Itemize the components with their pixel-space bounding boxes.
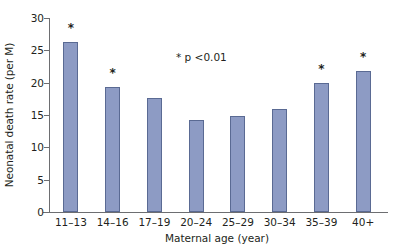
y-tick-label-5: 5 (6, 174, 44, 186)
x-tick-label: 11–13 (50, 216, 92, 229)
y-tick-label-15: 15 (6, 109, 44, 121)
bar[interactable] (105, 87, 120, 212)
bar-slot: * (50, 18, 92, 212)
significance-note: * p <0.01 (176, 51, 227, 64)
plot-area: 0 5 10 15 20 25 30 * * (50, 18, 384, 212)
bar[interactable] (230, 116, 245, 212)
significance-star: * (358, 52, 368, 62)
bar[interactable] (314, 83, 329, 212)
bar[interactable] (147, 98, 162, 212)
bar[interactable] (189, 120, 204, 212)
x-tick-label: 20–24 (175, 216, 217, 229)
y-tick-label-30: 30 (6, 12, 44, 24)
x-tick-label: 17–19 (134, 216, 176, 229)
bar-chart-figure: Neonatal death rate (per M) 0 5 10 15 20… (0, 0, 394, 252)
bar-slot (217, 18, 259, 212)
bar-slot (175, 18, 217, 212)
bar-slot (259, 18, 301, 212)
bar[interactable] (63, 42, 78, 212)
significance-star: * (66, 23, 76, 33)
bar-slot: * (342, 18, 384, 212)
x-tick-label: 35–39 (301, 216, 343, 229)
y-tick-label-20: 20 (6, 77, 44, 89)
bar-slot: * (92, 18, 134, 212)
x-tick-label: 30–34 (259, 216, 301, 229)
significance-star: * (108, 68, 118, 78)
bar-slot: * (301, 18, 343, 212)
y-tick-mark-0 (44, 212, 50, 213)
x-axis-line (43, 212, 388, 213)
bar-slot (134, 18, 176, 212)
x-tick-label: 40+ (342, 216, 384, 229)
significance-star: * (316, 64, 326, 74)
bar[interactable] (356, 71, 371, 212)
x-axis-title: Maternal age (year) (50, 232, 384, 245)
bar[interactable] (272, 109, 287, 212)
y-tick-label-25: 25 (6, 44, 44, 56)
y-tick-label-10: 10 (6, 141, 44, 153)
x-tick-label: 14–16 (92, 216, 134, 229)
x-tick-label: 25–29 (217, 216, 259, 229)
y-tick-label-0: 0 (6, 206, 44, 218)
